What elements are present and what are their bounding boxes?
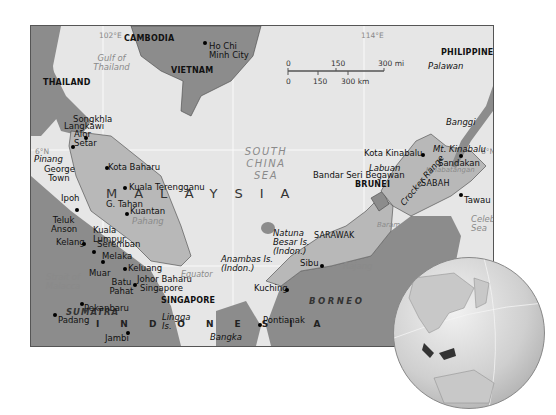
river-baram: Baram <box>377 221 400 230</box>
city-seremban: Seremban <box>97 240 140 249</box>
city-singapore: Singapore <box>140 284 183 293</box>
city-dot <box>123 267 127 271</box>
city-kuala-terengganu: Kuala Terengganu <box>129 183 205 192</box>
country-philippines: PHILIPPINES <box>441 48 494 57</box>
city-padang: Padang <box>58 316 89 325</box>
country-thailand: THAILAND <box>43 78 91 87</box>
city-jambi: Jambi <box>105 334 129 343</box>
city-dot <box>53 313 57 317</box>
city-tawau: Tawau <box>464 196 491 205</box>
city-kuching: Kuching <box>254 284 288 293</box>
city-sibu: Sibu <box>300 259 319 268</box>
city-ho-chi-minh: Ho Chi Minh City <box>209 42 249 60</box>
city-dot <box>133 283 137 287</box>
city-dot <box>92 250 96 254</box>
city-dot <box>125 212 129 216</box>
city-dot <box>105 166 109 170</box>
lon-label: 114°E <box>361 31 384 40</box>
country-cambodia: CAMBODIA <box>124 34 174 43</box>
lon-label: 102°E <box>99 31 122 40</box>
island-pinang: Pinang <box>34 155 63 164</box>
city-melaka: Melaka <box>102 252 132 261</box>
city-dot <box>320 264 324 268</box>
country-singapore: SINGAPORE <box>161 296 215 305</box>
island-natuna: Natuna Besar Is. (Indon.) <box>273 229 323 256</box>
city-dot <box>126 331 130 335</box>
island-palawan: Palawan <box>428 62 463 71</box>
city-dot <box>101 260 105 264</box>
city-batu-pahat: Batu Pahat <box>109 278 134 296</box>
city-kuantan: Kuantan <box>130 207 165 216</box>
water-south-china-sea: SOUTH CHINA SEA <box>236 146 296 182</box>
city-dot <box>82 242 86 246</box>
city-pontianak: Pontianak <box>263 316 305 325</box>
water-celebes-sea: Celebes Sea <box>471 215 494 233</box>
city-songkhla: Songkhla <box>73 115 112 124</box>
city-george-town: George Town <box>44 165 74 183</box>
city-ipoh: Ipoh <box>61 194 80 203</box>
locator-globe <box>393 257 545 409</box>
water-strait-of-malacca: Strait of Malacca <box>43 273 83 291</box>
city-pekanbaru: Pekanbaru <box>84 304 129 313</box>
city-muar: Muar <box>89 269 110 278</box>
city-dot <box>84 136 88 140</box>
country-brunei: BRUNEI <box>355 180 390 189</box>
city-dot <box>75 208 79 212</box>
island-bangka: Bangka <box>210 333 242 342</box>
city-dot <box>123 186 127 190</box>
city-kota-baharu: Kota Baharu <box>108 163 160 172</box>
island-banggi: Banggi <box>446 118 476 127</box>
city-sandakan: Sandakan <box>438 159 480 168</box>
city-dot <box>258 323 262 327</box>
feature-mt-kinabalu: Mt. Kinabalu <box>433 145 486 154</box>
city-dot <box>421 153 425 157</box>
city-teluk-anson: Teluk Anson <box>51 216 76 234</box>
city-dot <box>285 288 289 292</box>
city-kelang: Kelang <box>56 238 85 247</box>
city-keluang: Keluang <box>128 264 162 273</box>
river-pahang: Pahang <box>132 217 164 226</box>
city-dot <box>459 154 463 158</box>
city-kota-kinabalu: Kota Kinabalu <box>364 149 422 158</box>
island-anambas: Anambas Is. (Indon.) <box>221 255 281 273</box>
water-gulf-of-thailand: Gulf of Thailand <box>89 54 134 72</box>
city-dot <box>459 193 463 197</box>
city-dot <box>203 41 207 45</box>
country-vietnam: VIETNAM <box>171 66 213 75</box>
island-lingga: Lingga Is. <box>162 313 192 331</box>
river-rajang: Rajang <box>343 262 372 271</box>
island-borneo: BORNEO <box>309 297 364 306</box>
city-bandar-seri-begawan: Bandar Seri Begawan <box>313 171 405 180</box>
